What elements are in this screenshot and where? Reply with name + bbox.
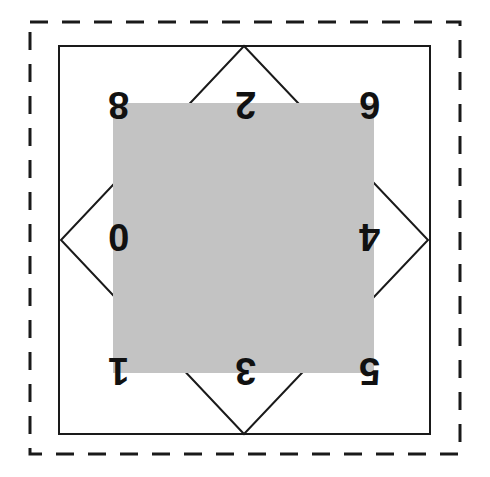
label-middle-left: 0 (108, 218, 129, 256)
label-bottom-right: 5 (359, 352, 380, 390)
label-bottom-center: 3 (235, 352, 256, 390)
label-bottom-left: 1 (108, 352, 129, 390)
figure-vector-layer (0, 0, 490, 477)
label-top-left: 8 (108, 86, 129, 124)
label-top-center: 2 (235, 86, 256, 124)
geometric-figure-canvas: 82604135 (0, 0, 490, 477)
label-top-right: 6 (359, 86, 380, 124)
gray-occluding-square (113, 103, 374, 373)
label-middle-right: 4 (359, 218, 380, 256)
